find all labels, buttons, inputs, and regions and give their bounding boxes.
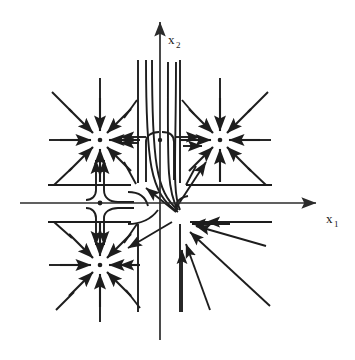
x1-axis-label-subscript: 1 [334,219,339,229]
hook-ll-north-a [86,208,96,218]
saddle-curve-a [152,60,178,210]
saddle-region [128,60,188,224]
inflow-tail-ur-se [248,168,266,185]
inflow-tail-ul-ne [124,100,137,118]
inflow-tail-ur-nw [182,100,194,114]
x2-axis-label-subscript: 2 [176,40,181,50]
hook-ll-north-b [104,208,134,218]
x1-axis-label-text: x [326,211,333,226]
inflow-tail-ul-sw [54,168,72,185]
marker-on-x2-axis [158,138,162,142]
basin-upper-right [162,78,271,208]
inflow-tail-ul-se [124,162,136,184]
basin-lower-left [49,208,172,322]
inflow-tail-ul-nw [52,92,72,112]
saddle-hook-left-upper [128,192,148,206]
basin-upper-left [49,78,159,202]
ray-lr-diag-shallow [196,226,266,246]
marker-on-x1-axis [98,201,103,206]
inflow-tail-ll-nw [54,222,72,238]
saddle-hook-left-lower [128,210,158,224]
x2-axis-label: x 2 [168,32,181,50]
hook-ul-south-a [86,190,96,200]
phase-portrait-figure: x 2 x 1 [0,0,355,360]
x1-axis-label: x 1 [326,211,339,229]
phase-plane-canvas: x 2 x 1 [0,0,355,360]
x2-axis-label-text: x [168,32,175,47]
ray-lr-diag-steep [186,244,210,310]
inflow-tail-ur-ne [248,92,268,112]
basin-lower-right [182,222,270,312]
inflow-tail-ll-ne [124,224,137,243]
inflow-tail-ll-sw [56,292,74,310]
